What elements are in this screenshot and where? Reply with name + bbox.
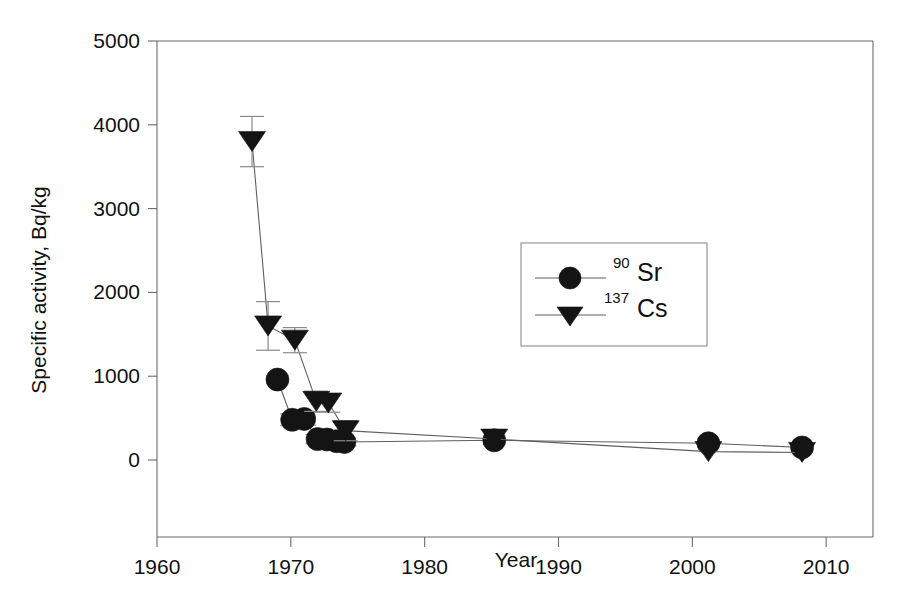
chart-container: 010002000300040005000 196019701980199020… [0, 0, 912, 612]
x-tick-label: 2010 [803, 555, 850, 578]
legend-label-sr-element: Sr [637, 258, 662, 286]
y-tick-label: 0 [128, 448, 140, 471]
data-point-marker [266, 368, 289, 391]
x-axis-ticks: 196019701980199020002010 [134, 537, 850, 578]
series-Sr-90 [266, 368, 814, 459]
data-point-marker [281, 330, 308, 350]
x-tick-label: 1960 [134, 555, 181, 578]
y-tick-label: 1000 [93, 364, 140, 387]
y-tick-label: 2000 [93, 280, 140, 303]
series-line-Sr-90 [277, 380, 802, 448]
data-point-marker [255, 316, 282, 336]
y-tick-label: 3000 [93, 197, 140, 220]
y-axis-ticks: 010002000300040005000 [93, 29, 157, 471]
legend-label-sr-superscript: 90 [613, 254, 630, 271]
y-tick-label: 4000 [93, 113, 140, 136]
y-tick-label: 5000 [93, 29, 140, 52]
x-tick-label: 1980 [401, 555, 448, 578]
y-axis-title: Specific activity, Bq/kg [27, 186, 50, 393]
x-tick-label: 1970 [267, 555, 314, 578]
legend-marker-sr-circle-icon [559, 267, 581, 289]
x-tick-label: 2000 [669, 555, 716, 578]
x-axis-title: Year [495, 548, 537, 571]
legend-label-cs-superscript: 137 [604, 289, 629, 306]
data-point-marker [239, 132, 266, 152]
activity-decay-chart: 010002000300040005000 196019701980199020… [0, 0, 912, 612]
legend: 90 Sr 137 Cs [521, 243, 707, 346]
x-tick-label: 1990 [535, 555, 582, 578]
legend-label-cs-element: Cs [637, 294, 668, 322]
